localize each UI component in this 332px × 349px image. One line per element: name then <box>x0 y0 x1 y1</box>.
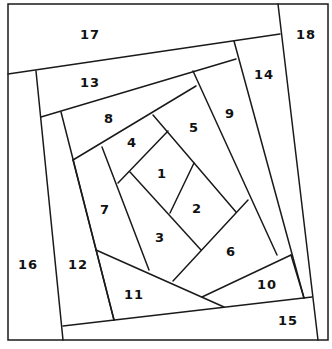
piece-label-7: 7 <box>100 202 110 217</box>
seam-10 <box>202 255 291 297</box>
piece-label-5: 5 <box>189 120 199 135</box>
piece-label-9: 9 <box>225 106 235 121</box>
seam-10-right <box>291 255 304 298</box>
piece-label-18: 18 <box>296 27 316 42</box>
seam-9 <box>193 71 277 255</box>
piece-label-2: 2 <box>192 201 202 216</box>
seam-17 <box>8 34 280 74</box>
piece-label-8: 8 <box>104 111 114 126</box>
piece-label-16: 16 <box>18 257 38 272</box>
piece-label-13: 13 <box>80 75 100 90</box>
piece-label-1: 1 <box>157 166 167 181</box>
seam-11 <box>96 250 224 307</box>
seam-13 <box>41 59 236 117</box>
piece-label-11: 11 <box>124 287 144 302</box>
seam-2 <box>170 163 194 213</box>
outer-border <box>8 4 328 340</box>
piece-label-14: 14 <box>254 67 274 82</box>
seam-7 <box>73 160 114 320</box>
seam-6 <box>173 200 248 281</box>
piece-label-10: 10 <box>257 277 277 292</box>
piece-label-4: 4 <box>127 135 137 150</box>
seam-18 <box>278 4 318 340</box>
seam-15 <box>63 297 312 326</box>
seam-3 <box>130 172 201 250</box>
piece-label-6: 6 <box>226 244 236 259</box>
piece-label-15: 15 <box>278 313 298 328</box>
piece-label-17: 17 <box>80 27 100 42</box>
piece-label-12: 12 <box>68 257 88 272</box>
piece-label-3: 3 <box>155 230 165 245</box>
